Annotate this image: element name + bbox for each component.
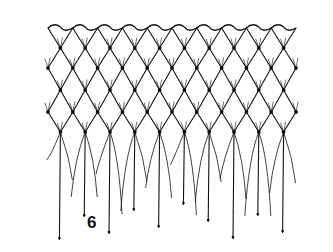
netting-drawing [0, 0, 333, 252]
figure-number-label: 6 [87, 214, 96, 231]
